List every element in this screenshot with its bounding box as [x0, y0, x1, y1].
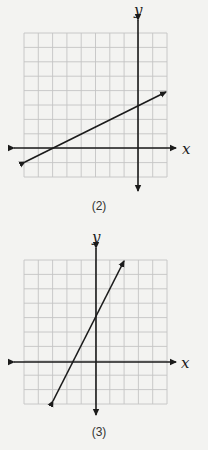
graph-3: x y (3)	[14, 228, 190, 439]
graphs-canvas: x y (2) x y (3)	[0, 0, 208, 450]
graph-3-function-line	[53, 261, 124, 401]
graph-2-caption: (2)	[92, 199, 107, 213]
graph-3-y-label: y	[91, 228, 101, 246]
graph-2: x y (2)	[14, 1, 191, 213]
graph-2-x-label: x	[182, 140, 191, 158]
graph-3-caption: (3)	[92, 425, 107, 439]
graph-2-grid	[24, 33, 167, 177]
graph-2-y-label: y	[133, 1, 143, 19]
graph-3-x-label: x	[181, 354, 190, 372]
